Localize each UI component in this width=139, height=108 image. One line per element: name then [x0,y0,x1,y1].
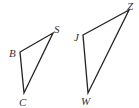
vertex-label-w: W [81,95,91,107]
vertex-label-z: Z [127,0,134,12]
diagram-canvas: B S C J Z W [0,0,139,108]
triangle-jzw-outline [83,10,129,93]
vertex-label-j: J [74,31,80,43]
vertex-label-b: B [9,47,16,59]
triangle-jzw: J Z W [74,0,134,107]
triangle-bsc-outline [20,33,53,93]
triangles-figure: B S C J Z W [0,0,139,108]
triangle-bsc: B S C [9,23,60,108]
vertex-label-s: S [54,23,60,35]
vertex-label-c: C [19,96,27,108]
